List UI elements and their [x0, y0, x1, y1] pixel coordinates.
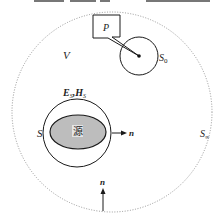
outer-surface-label: S∞ [200, 128, 209, 140]
normal-bottom-label: n [100, 177, 105, 187]
source-surface-label: S [37, 127, 43, 139]
region-v-label: V [63, 49, 71, 61]
diagram-canvas: V P S0 ES,HS S 源 n S∞ [0, 0, 224, 218]
outer-surface-s-infinity [12, 12, 212, 212]
source-label: 源 [73, 125, 83, 137]
observation-callout: P [93, 15, 139, 56]
observation-point-dot [137, 54, 141, 58]
cropped-header-text [34, 0, 210, 2]
normal-arrow-bottom [101, 188, 106, 211]
observation-point-label: P [102, 22, 109, 33]
normal-arrow-right [112, 131, 127, 136]
normal-right-label: n [129, 128, 134, 138]
small-surface-label: S0 [159, 52, 168, 65]
field-label: ES,HS [62, 87, 86, 99]
